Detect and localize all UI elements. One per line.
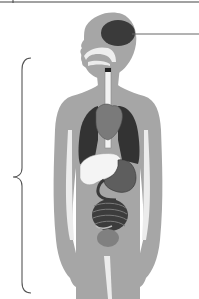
bladder (97, 229, 119, 247)
torso-brace (13, 58, 31, 293)
intestines (92, 199, 128, 231)
anatomy-diagram (0, 0, 199, 299)
brain (101, 20, 135, 46)
